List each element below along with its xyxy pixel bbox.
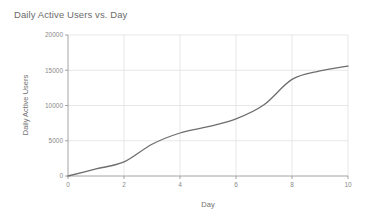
data-line-daily-active-users xyxy=(68,66,348,176)
axis-lines xyxy=(65,35,348,179)
y-axis-tick-label: 0 xyxy=(59,172,63,179)
data-series-layer xyxy=(68,66,348,176)
x-axis-tick-label: 10 xyxy=(344,181,352,188)
y-axis-title: Daily Active Users xyxy=(21,75,30,136)
y-axis-tick-labels: 05000100001500020000 xyxy=(45,31,63,179)
y-axis-tick-label: 10000 xyxy=(45,102,63,109)
x-axis-tick-label: 4 xyxy=(178,181,182,188)
y-axis-tick-label: 5000 xyxy=(49,137,64,144)
x-axis-tick-label: 6 xyxy=(234,181,238,188)
chart-figure: Daily Active Users vs. Day 0500010000150… xyxy=(0,0,369,224)
y-axis-tick-label: 20000 xyxy=(45,31,63,38)
x-axis-title: Day xyxy=(201,200,215,209)
x-axis-tick-labels: 0246810 xyxy=(66,181,352,188)
x-axis-tick-label: 2 xyxy=(122,181,126,188)
y-axis-tick-label: 15000 xyxy=(45,67,63,74)
x-axis-tick-label: 8 xyxy=(290,181,294,188)
x-axis-tick-label: 0 xyxy=(66,181,70,188)
grid-lines xyxy=(68,35,348,176)
line-chart-plot: 05000100001500020000 0246810 Daily Activ… xyxy=(0,0,369,224)
